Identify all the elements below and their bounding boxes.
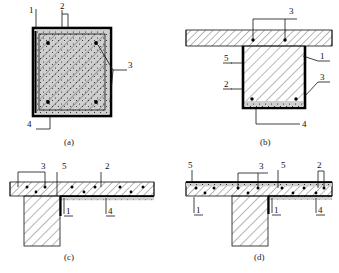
label-b-1: 1	[320, 51, 325, 61]
label-b-5: 5	[224, 53, 229, 63]
a-rebar-dot	[94, 41, 98, 45]
d-bottom-mortar	[268, 197, 332, 200]
c-rebar-dot	[35, 191, 38, 194]
engineering-drawing-svg: 1 2 3 4 (a)	[0, 0, 339, 273]
label-d-2: 2	[317, 160, 322, 170]
d-rebar-dot	[195, 187, 198, 190]
d-top-mortar	[186, 183, 332, 186]
c-mortar-band	[60, 197, 154, 200]
b-rebar-dot	[294, 97, 297, 100]
label-b-3-right: 3	[320, 72, 325, 82]
c-rebar-dot	[130, 191, 133, 194]
label-d-1-left: 1	[196, 205, 201, 215]
caption-c: (c)	[64, 252, 74, 262]
d-rebar-dot	[213, 187, 216, 190]
a-rebar-dot	[46, 100, 50, 104]
label-a-3: 3	[128, 60, 133, 70]
c-stem	[24, 196, 60, 246]
c-rebar-dot	[94, 186, 97, 189]
d-rebar-dot	[292, 192, 295, 195]
label-c-5: 5	[62, 161, 67, 171]
b-rebar-dot	[250, 97, 253, 100]
label-d-5-left: 5	[188, 160, 193, 170]
d-rebar-dot	[247, 192, 250, 195]
label-d-1-right: 1	[274, 205, 279, 215]
b-mortar-band	[245, 101, 303, 107]
label-d-4: 4	[318, 205, 323, 215]
label-a-1: 1	[29, 5, 34, 15]
caption-b: (b)	[260, 137, 271, 147]
b-slab	[186, 30, 332, 46]
label-a-2: 2	[60, 1, 65, 11]
label-b-3-top: 3	[289, 6, 294, 16]
c-rebar-dot	[71, 186, 74, 189]
caption-d: (d)	[254, 252, 265, 262]
a-rebar-dot	[94, 100, 98, 104]
label-c-4: 4	[108, 206, 113, 216]
caption-a: (a)	[64, 137, 74, 147]
c-rebar-dot	[26, 186, 29, 189]
label-b-2: 2	[224, 79, 229, 89]
label-d-3: 3	[259, 161, 264, 171]
label-a-4: 4	[27, 119, 32, 129]
d-rebar-dot	[204, 192, 207, 195]
label-d-5-right: 5	[281, 160, 286, 170]
label-c-3: 3	[41, 161, 46, 171]
c-rebar-dot	[83, 191, 86, 194]
a-concrete-core	[39, 34, 105, 110]
d-rebar-dot	[315, 192, 318, 195]
d-rebar-dot	[281, 187, 284, 190]
c-slab	[10, 182, 154, 196]
drawing-canvas: 1 2 3 4 (a)	[0, 0, 339, 273]
label-c-2: 2	[105, 161, 110, 171]
label-b-4: 4	[302, 119, 307, 129]
label-c-1: 1	[66, 206, 71, 216]
c-rebar-dot	[142, 186, 145, 189]
d-rebar-dot	[303, 187, 306, 190]
a-rebar-dot	[46, 41, 50, 45]
d-stem	[232, 196, 268, 246]
c-rebar-dot	[119, 186, 122, 189]
